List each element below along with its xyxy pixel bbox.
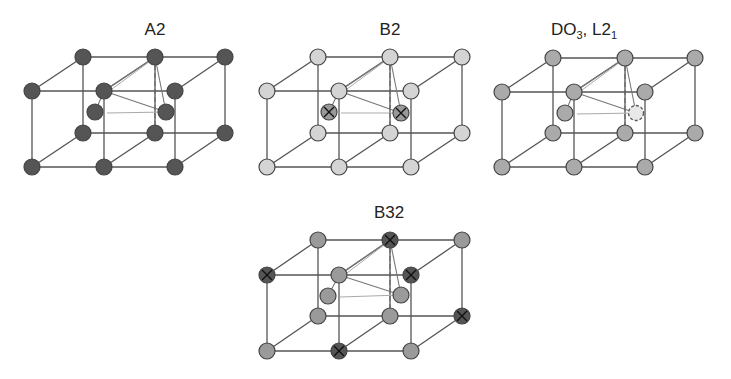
lattice-atom (382, 125, 398, 141)
construction-line (347, 59, 388, 89)
lattice-atom (147, 49, 163, 65)
lattice-edge (267, 133, 318, 167)
lattice-atom (687, 50, 703, 66)
lattice-atom (310, 232, 326, 248)
inner-atom (557, 105, 573, 121)
lattice-edge (502, 133, 553, 167)
lattice-edge (32, 57, 83, 91)
lattice-atom (217, 125, 233, 141)
lattice-atom (454, 125, 470, 141)
lattice-atom (494, 159, 510, 175)
lattice-atom (566, 84, 582, 100)
title-a2: A2 (145, 20, 166, 39)
panel-b32 (259, 232, 470, 359)
lattice-atom (24, 159, 40, 175)
inner-atom (158, 104, 174, 120)
lattice-atom (545, 50, 561, 66)
lattice-edge (645, 58, 695, 92)
lattice-atom (403, 159, 419, 175)
inner-atom (87, 104, 103, 120)
title-l21-sub: 1 (611, 29, 617, 41)
lattice-atom (454, 49, 470, 65)
inner-atom (320, 288, 336, 304)
lattice-atom (96, 159, 112, 175)
lattice-atom (96, 83, 112, 99)
construction-line (107, 112, 166, 113)
construction-line (104, 57, 155, 91)
lattice-atom (217, 49, 233, 65)
lattice-edge (502, 58, 553, 92)
lattice-atom (310, 125, 326, 141)
title-l21-main: , L2 (583, 20, 611, 39)
lattice-atom (687, 125, 703, 141)
lattice-atom (259, 83, 275, 99)
inner-atom (393, 287, 409, 303)
construction-line (112, 59, 153, 89)
lattice-atom (403, 343, 419, 359)
panel-do3-l21 (494, 50, 703, 175)
title-do3-main: DO (551, 20, 577, 39)
title-b2: B2 (380, 20, 401, 39)
lattice-atom (403, 83, 419, 99)
lattice-edge (175, 133, 225, 167)
lattice-edge (645, 133, 695, 167)
lattice-edge (267, 316, 318, 351)
vacancy-site (629, 106, 644, 121)
construction-line (339, 240, 390, 275)
lattice-atom (637, 84, 653, 100)
lattice-atom (545, 125, 561, 141)
lattice-atom (167, 83, 183, 99)
lattice-edge (267, 240, 318, 275)
lattice-edge (104, 133, 155, 167)
lattice-atom (617, 50, 633, 66)
construction-line (574, 58, 625, 92)
lattice-atom (454, 232, 470, 248)
construction-line (340, 295, 401, 297)
crystal-structure-figure: A2 B2 DO3, L21 B32 (0, 0, 731, 379)
construction-line (339, 91, 401, 113)
lattice-atom (75, 49, 91, 65)
construction-line (574, 92, 636, 113)
title-do3-l21: DO3, L21 (551, 20, 617, 41)
construction-line (339, 275, 401, 295)
title-b32: B32 (374, 203, 404, 222)
lattice-atom (617, 125, 633, 141)
lattice-edge (411, 57, 462, 91)
construction-line (577, 113, 636, 114)
lattice-edge (267, 57, 318, 91)
lattice-edge (339, 133, 390, 167)
lattice-edge (411, 240, 462, 275)
construction-line (104, 91, 166, 112)
lattice-edge (175, 57, 225, 91)
construction-line (347, 242, 388, 273)
lattice-edge (411, 316, 462, 351)
lattice-atom (310, 308, 326, 324)
panel-b2 (259, 49, 470, 175)
lattice-atom (382, 308, 398, 324)
panel-a2 (24, 49, 233, 175)
construction-line (339, 57, 390, 91)
lattice-atom (331, 267, 347, 283)
lattice-edge (32, 133, 83, 167)
lattice-atom (147, 125, 163, 141)
lattice-atom (331, 159, 347, 175)
lattice-atom (494, 84, 510, 100)
lattice-atom (259, 159, 275, 175)
lattice-atom (24, 83, 40, 99)
lattice-atom (75, 125, 91, 141)
lattice-atom (259, 343, 275, 359)
lattice-edge (411, 133, 462, 167)
lattice-edge (574, 133, 625, 167)
lattice-atom (566, 159, 582, 175)
lattice-atom (637, 159, 653, 175)
lattice-atom (167, 159, 183, 175)
lattice-atom (331, 83, 347, 99)
lattice-atom (310, 49, 326, 65)
lattice-atom (382, 49, 398, 65)
construction-line (582, 60, 623, 90)
lattice-edge (339, 316, 390, 351)
